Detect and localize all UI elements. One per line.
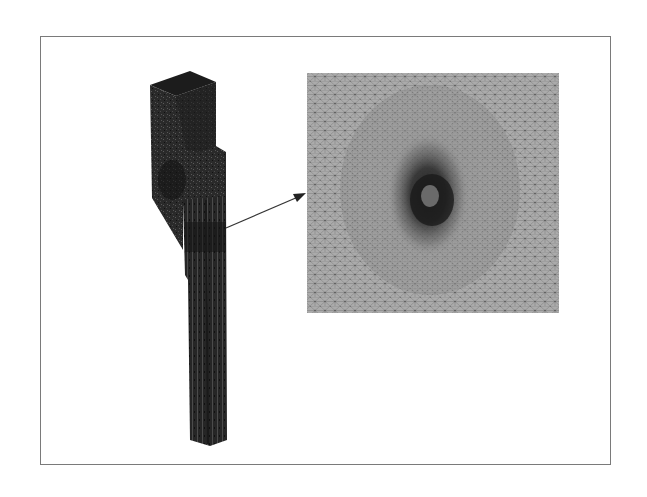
part-model <box>150 71 227 446</box>
figure-canvas <box>0 0 647 497</box>
callout-arrow <box>226 193 306 228</box>
zoom-inset <box>307 73 559 313</box>
hole-feature <box>421 185 439 207</box>
arrowhead-icon <box>293 193 306 202</box>
